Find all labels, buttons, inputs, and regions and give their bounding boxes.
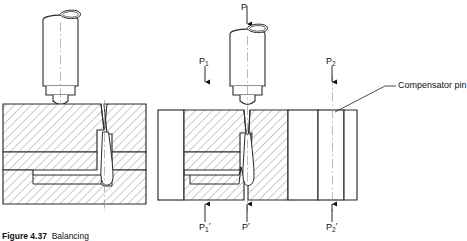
label-force-P2: P2 bbox=[326, 57, 336, 66]
label-reaction-P-prime: P′ bbox=[242, 223, 250, 232]
right-view-group bbox=[158, 6, 396, 222]
left-view-group bbox=[3, 10, 146, 212]
left-weld-nugget bbox=[101, 132, 113, 185]
right-electrode-punch bbox=[230, 24, 268, 104]
compensator-pin-leader bbox=[335, 86, 385, 112]
label-reaction-P1-prime: P1′ bbox=[199, 223, 210, 232]
label-compensator-pin: Compensator pin bbox=[398, 81, 467, 90]
left-electrode-punch bbox=[43, 10, 81, 104]
label-force-P1: P1 bbox=[199, 57, 209, 66]
left-middle-plate bbox=[3, 152, 146, 170]
left-lower-die-block bbox=[3, 167, 146, 204]
right-die-block-left bbox=[184, 110, 246, 200]
left-upper-die-block bbox=[3, 104, 146, 152]
right-left-plain-block bbox=[158, 110, 184, 200]
label-reaction-P2-prime: P2′ bbox=[326, 223, 337, 232]
compensator-pin-block bbox=[288, 110, 357, 200]
label-force-P: P bbox=[241, 3, 247, 12]
figure-caption: Figure 4.37 Balancing bbox=[2, 231, 89, 241]
